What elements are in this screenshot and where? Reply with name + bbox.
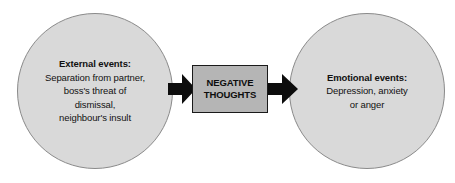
external-events-heading: External events: — [59, 57, 131, 71]
external-events-line-1: Separation from partner, — [45, 71, 145, 85]
external-events-line-2: boss's threat of — [64, 84, 127, 98]
arrow-right-icon — [266, 74, 298, 104]
emotional-events-heading: Emotional events: — [327, 71, 407, 85]
negative-thoughts-line-2: THOUGHTS — [204, 89, 257, 101]
node-external-events: External events: Separation from partner… — [17, 13, 173, 169]
external-events-line-4: neighbour's insult — [59, 111, 131, 125]
external-events-line-3: dismissal, — [75, 98, 116, 112]
negative-thoughts-line-1: NEGATIVE — [206, 77, 253, 89]
node-emotional-events: Emotional events: Depression, anxiety or… — [289, 13, 445, 169]
diagram-canvas: External events: Separation from partner… — [0, 0, 455, 183]
node-negative-thoughts: NEGATIVE THOUGHTS — [192, 65, 268, 113]
emotional-events-line-2: or anger — [350, 98, 385, 112]
emotional-events-line-1: Depression, anxiety — [326, 84, 408, 98]
